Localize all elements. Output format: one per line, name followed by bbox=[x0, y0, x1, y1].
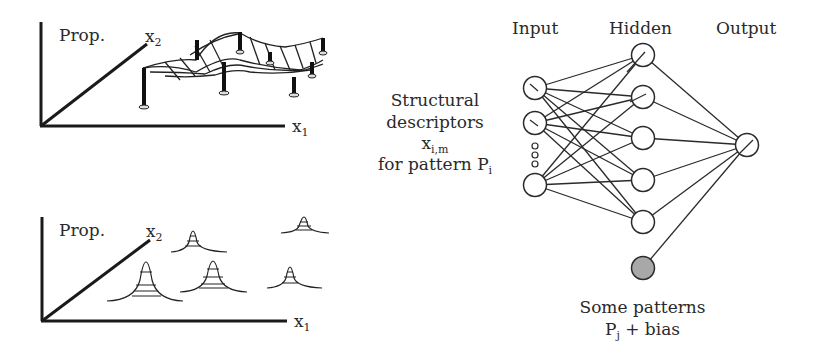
pj-var: P bbox=[605, 319, 616, 339]
layer-label-hidden: Hidden bbox=[609, 20, 672, 37]
output-node bbox=[736, 134, 759, 157]
x1-var: x bbox=[292, 116, 302, 136]
bias-caption-line1: Some patterns bbox=[570, 299, 715, 316]
var-x: x bbox=[421, 133, 431, 153]
line4-text: for pattern P bbox=[378, 154, 489, 174]
input-node bbox=[524, 174, 547, 197]
x2-sub: 2 bbox=[156, 231, 163, 244]
bias-node bbox=[632, 257, 655, 280]
input-caption-line1: Structural bbox=[370, 92, 500, 109]
hidden-node bbox=[632, 169, 655, 192]
mesh-surface bbox=[143, 33, 323, 80]
hidden-node bbox=[632, 86, 655, 109]
bias-caption-line2: Pj + bias bbox=[570, 321, 715, 338]
input-caption-line2: descriptors bbox=[370, 114, 500, 131]
top-plot-y-label: Prop. bbox=[59, 27, 105, 44]
top-plot-x2-label: x2 bbox=[145, 28, 162, 45]
line4-sub: i bbox=[489, 164, 493, 177]
bottom-plot-x2-label: x2 bbox=[146, 223, 163, 240]
x2-sub: 2 bbox=[155, 36, 162, 49]
top-plot-x1-label: x1 bbox=[292, 118, 309, 135]
bottom-plot-x1-label: x1 bbox=[294, 313, 311, 330]
x1-var: x bbox=[294, 311, 304, 331]
bottom-plot-y-label: Prop. bbox=[59, 222, 105, 239]
x2-var: x bbox=[146, 221, 156, 241]
layer-label-output: Output bbox=[716, 20, 776, 37]
gaussian-peaks bbox=[107, 217, 329, 301]
input-caption-var: xi,m bbox=[370, 135, 500, 152]
hidden-nodes bbox=[632, 44, 655, 234]
input-nodes bbox=[524, 77, 547, 197]
layer-label-input: Input bbox=[512, 20, 558, 37]
input-caption-line4: for pattern Pi bbox=[365, 156, 505, 173]
hidden-node bbox=[632, 211, 655, 234]
ellipsis-dots bbox=[532, 143, 538, 167]
input-node bbox=[524, 112, 547, 135]
x1-sub: 1 bbox=[304, 321, 311, 334]
x1-sub: 1 bbox=[302, 126, 309, 139]
x2-var: x bbox=[145, 26, 155, 46]
bias-text: + bias bbox=[620, 319, 680, 339]
hidden-node bbox=[632, 127, 655, 150]
